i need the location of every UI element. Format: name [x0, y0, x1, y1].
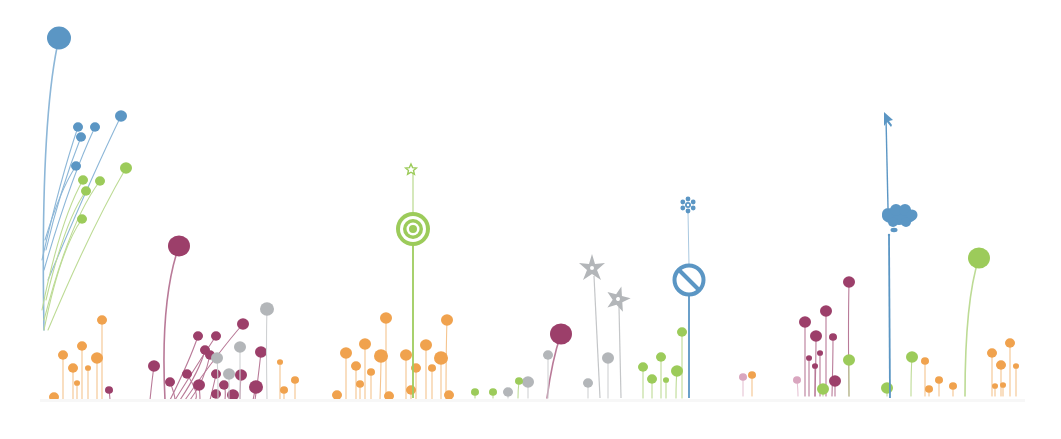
flower-bulb — [806, 355, 812, 361]
flower-bulb — [810, 330, 822, 341]
flower-bulb — [793, 376, 801, 384]
flower-bulb — [380, 312, 392, 323]
flower-bulb — [367, 368, 375, 376]
flower-bulb — [85, 365, 91, 371]
flower-bulb — [260, 302, 274, 315]
flower-bulb — [656, 352, 666, 362]
flower-bulb — [193, 379, 205, 390]
flower-bulb — [115, 110, 127, 121]
flower-bulb — [120, 162, 132, 173]
flower-bulb — [515, 377, 523, 385]
flower-bulb — [400, 349, 412, 360]
flower-bulb — [583, 378, 593, 388]
flower-bulb — [949, 382, 957, 390]
flower-bulb — [935, 376, 943, 384]
flower-bulb — [374, 349, 388, 362]
flower-bulb — [748, 371, 756, 379]
flower-bulb — [105, 386, 113, 394]
flower-bulb — [71, 161, 81, 171]
flower-bulb — [671, 365, 683, 376]
flower-bulb — [77, 214, 87, 224]
flower-bulb — [211, 352, 223, 363]
flower-bulb — [925, 385, 933, 393]
flower-bulb — [987, 348, 997, 358]
flower-bulb — [817, 350, 823, 356]
flower-bulb — [97, 315, 107, 325]
flower-bulb — [77, 341, 87, 351]
flower-bulb — [434, 351, 448, 364]
flower-bulb — [47, 27, 71, 50]
flower-bulb — [58, 350, 68, 360]
flower-bulb — [543, 350, 553, 360]
flower-bulb — [359, 338, 371, 349]
flower-bulb — [211, 389, 221, 399]
flower-bulb — [843, 354, 855, 365]
flower-bulb — [223, 368, 235, 379]
flower-bulb — [280, 386, 288, 394]
flower-bulb — [638, 362, 648, 372]
flower-bulb — [921, 357, 929, 365]
flower-bulb — [340, 347, 352, 358]
flower-bulb — [211, 369, 221, 379]
flower-bulb — [739, 373, 747, 381]
flower-bulb — [332, 390, 342, 400]
flower-bulb — [906, 351, 918, 362]
flower-bulb — [444, 390, 454, 400]
flower-bulb — [235, 369, 247, 380]
flower-bulb — [968, 248, 990, 269]
flower-bulb — [817, 383, 829, 394]
flower-bulb — [996, 360, 1006, 370]
flower-bulb — [829, 375, 841, 386]
flower-bulb — [647, 374, 657, 384]
flower-bulb — [234, 341, 246, 352]
flower-bulb — [255, 346, 267, 357]
flower-bulb — [148, 360, 160, 371]
flower-bulb — [522, 376, 534, 387]
ground-shadow — [40, 399, 1025, 402]
flower-bulb — [351, 361, 361, 371]
flower-bulb — [550, 324, 572, 345]
flower-bulb — [356, 380, 364, 388]
flower-bulb — [1005, 338, 1015, 348]
flower-bulb — [74, 380, 80, 386]
flower-bulb — [829, 333, 837, 341]
flower-bulb — [471, 388, 479, 396]
flower-bulb — [76, 132, 86, 142]
flower-bulb — [992, 383, 998, 389]
flower-bulb — [1013, 363, 1019, 369]
flower-bulb — [428, 364, 436, 372]
flower-bulb — [219, 380, 229, 390]
flower-bulb — [812, 363, 818, 369]
flower-bulb — [95, 176, 105, 186]
flower-bulb — [168, 236, 190, 257]
flower-bulb — [237, 318, 249, 329]
flower-bulb — [193, 331, 203, 341]
target-icon — [396, 212, 430, 246]
flower-bulb — [165, 377, 175, 387]
flower-bulb — [249, 380, 263, 393]
flower-bulb — [677, 327, 687, 337]
flower-bulb — [420, 339, 432, 350]
flower-bulb — [441, 314, 453, 325]
flower-bulb — [503, 387, 513, 397]
flower-bulb — [91, 352, 103, 363]
flower-bulb — [406, 385, 416, 395]
flower-bulb — [81, 186, 91, 196]
flower-bulb — [90, 122, 100, 132]
flower-bulb — [663, 377, 669, 383]
flower-bulb — [182, 369, 192, 379]
flower-bulb — [291, 376, 299, 384]
flower-bulb — [602, 352, 614, 363]
flower-bulb — [1000, 382, 1006, 388]
flower-bulb — [211, 331, 221, 341]
flower-bulb — [820, 305, 832, 316]
meadow-illustration — [0, 0, 1061, 439]
flower-bulb — [489, 388, 497, 396]
flower-bulb — [799, 316, 811, 327]
flower-bulb — [843, 276, 855, 287]
flower-bulb — [73, 122, 83, 132]
flower-bulb — [78, 175, 88, 185]
flower-bulb — [881, 382, 893, 393]
flower-bulb — [68, 363, 78, 373]
flower-bulb — [277, 359, 283, 365]
